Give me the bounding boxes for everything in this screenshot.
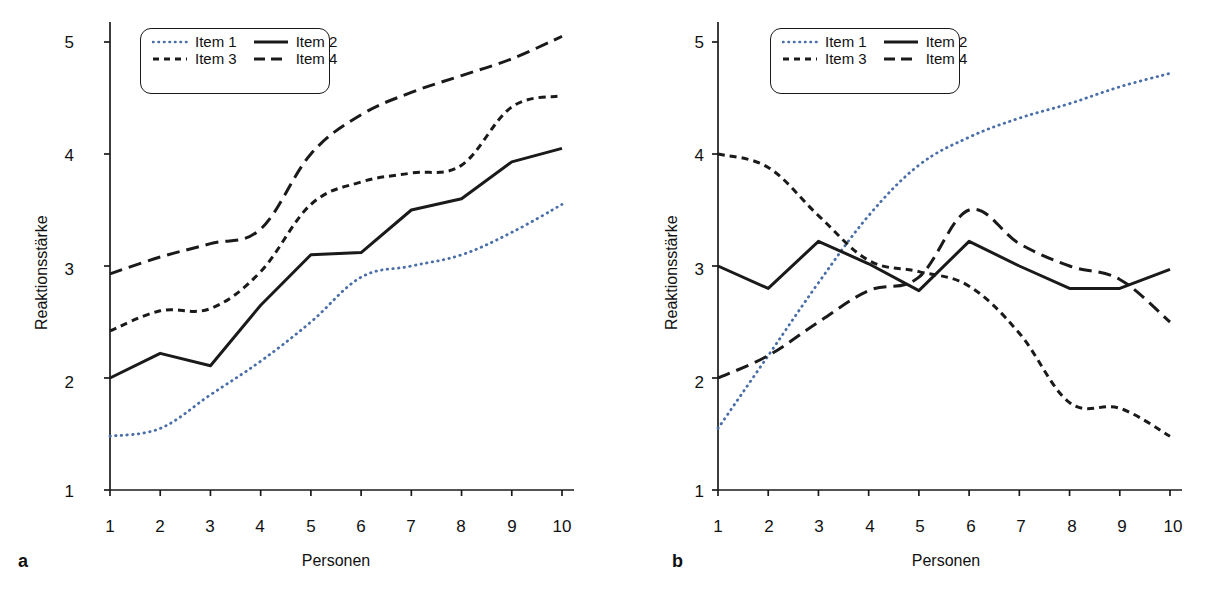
series-line-b-4 xyxy=(718,209,1170,378)
series-line-a-1 xyxy=(110,204,562,436)
legend-label: Item 1 xyxy=(825,34,867,49)
y-tick-label: 2 xyxy=(682,374,704,391)
x-axis-title: Personen xyxy=(846,553,1046,569)
x-tick-label: 6 xyxy=(956,518,986,535)
legend-entry-item-4: Item 4 xyxy=(883,51,968,66)
legend-entry-item-3: Item 3 xyxy=(782,51,867,66)
legend-swatch-item-1 xyxy=(152,36,188,48)
x-tick-label: 3 xyxy=(195,518,225,535)
y-axis-title: Reaktionsstärke xyxy=(664,215,680,330)
legend-entry-item-4: Item 4 xyxy=(253,51,338,66)
x-tick-label: 5 xyxy=(905,518,935,535)
legend-label: Item 2 xyxy=(296,34,338,49)
y-tick-label: 1 xyxy=(682,483,704,500)
legend-swatch-item-4 xyxy=(253,53,289,65)
legend-swatch-item-4 xyxy=(883,53,919,65)
x-tick-label: 10 xyxy=(1158,518,1188,535)
chart-panel-b: 5 4 3 2 1 1 2 3 4 5 6 7 8 9 10 Reaktions… xyxy=(620,0,1209,602)
x-tick-label: 6 xyxy=(346,518,376,535)
legend-entry-item-3: Item 3 xyxy=(152,51,237,66)
y-tick-label: 5 xyxy=(52,34,74,51)
panel-letter-a: a xyxy=(18,552,28,570)
legend-label: Item 4 xyxy=(926,51,968,66)
x-tick-label: 10 xyxy=(547,518,577,535)
x-tick-label: 3 xyxy=(804,518,834,535)
legend-label: Item 4 xyxy=(296,51,338,66)
legend-label: Item 1 xyxy=(195,34,237,49)
legend-a: Item 1 Item 2 Item 3 xyxy=(140,28,330,94)
x-tick-label: 5 xyxy=(296,518,326,535)
series-line-b-2 xyxy=(718,241,1170,290)
legend-entry-item-2: Item 2 xyxy=(253,34,338,49)
y-tick-label: 2 xyxy=(52,374,74,391)
x-tick-label: 2 xyxy=(754,518,784,535)
x-tick-label: 8 xyxy=(446,518,476,535)
legend-b: Item 1 Item 2 Item 3 xyxy=(770,28,960,94)
legend-label: Item 3 xyxy=(195,51,237,66)
y-axis-title: Reaktionsstärke xyxy=(34,215,50,330)
legend-entry-item-1: Item 1 xyxy=(152,34,237,49)
legend-label: Item 2 xyxy=(926,34,968,49)
legend-swatch-item-3 xyxy=(152,53,188,65)
legend-swatch-item-3 xyxy=(782,53,818,65)
x-tick-label: 8 xyxy=(1057,518,1087,535)
x-tick-label: 4 xyxy=(855,518,885,535)
x-tick-label: 4 xyxy=(245,518,275,535)
series-line-b-3 xyxy=(718,154,1170,436)
y-tick-label: 1 xyxy=(52,483,74,500)
y-tick-label: 4 xyxy=(682,147,704,164)
y-tick-label: 3 xyxy=(682,261,704,278)
x-tick-label: 1 xyxy=(95,518,125,535)
y-tick-label: 3 xyxy=(52,261,74,278)
y-tick-label: 4 xyxy=(52,147,74,164)
x-tick-label: 9 xyxy=(497,518,527,535)
legend-swatch-item-2 xyxy=(253,36,289,48)
x-tick-label: 2 xyxy=(145,518,175,535)
legend-entry-item-2: Item 2 xyxy=(883,34,968,49)
x-tick-label: 1 xyxy=(703,518,733,535)
legend-entry-item-1: Item 1 xyxy=(782,34,867,49)
x-tick-label: 7 xyxy=(396,518,426,535)
chart-panel-a: 5 4 3 2 1 1 2 3 4 5 6 7 8 9 10 Reaktions… xyxy=(0,0,620,602)
series-line-b-1 xyxy=(718,73,1170,428)
x-axis-title: Personen xyxy=(236,553,436,569)
panel-letter-b: b xyxy=(672,552,683,570)
legend-swatch-item-2 xyxy=(883,36,919,48)
x-tick-label: 9 xyxy=(1107,518,1137,535)
series-line-a-2 xyxy=(110,148,562,378)
y-tick-label: 5 xyxy=(682,34,704,51)
x-tick-label: 7 xyxy=(1006,518,1036,535)
figure-root: 5 4 3 2 1 1 2 3 4 5 6 7 8 9 10 Reaktions… xyxy=(0,0,1209,602)
legend-label: Item 3 xyxy=(825,51,867,66)
legend-swatch-item-1 xyxy=(782,36,818,48)
